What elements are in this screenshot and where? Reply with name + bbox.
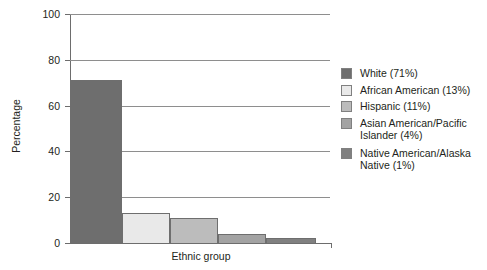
bar-native-american-alaska-native bbox=[266, 238, 316, 243]
plot-area bbox=[70, 14, 330, 243]
legend-item-native-american-alaska-native: Native American/Alaska Native (1%) bbox=[341, 147, 487, 172]
y-axis-title: Percentage bbox=[10, 71, 22, 181]
legend-swatch-icon-white bbox=[341, 68, 352, 79]
y-axis-label-60: 60 bbox=[20, 101, 60, 112]
legend-item-white: White (71%) bbox=[341, 67, 487, 80]
y-axis-label-100: 100 bbox=[20, 9, 60, 20]
legend-item-asian-american-pacific-islander: Asian American/Pacific Islander (4%) bbox=[341, 117, 487, 142]
legend: White (71%) African American (13%) Hispa… bbox=[341, 67, 487, 176]
bar-white bbox=[70, 80, 122, 243]
y-axis-label-40: 40 bbox=[20, 146, 60, 157]
y-axis-label-0: 0 bbox=[20, 238, 60, 249]
legend-swatch-icon-hispanic bbox=[341, 101, 352, 112]
y-axis-label-20: 20 bbox=[20, 192, 60, 203]
legend-label-asian-american-pacific-islander: Asian American/Pacific Islander (4%) bbox=[360, 117, 487, 142]
legend-swatch-icon-asian-american-pacific-islander bbox=[341, 118, 352, 129]
legend-label-hispanic: Hispanic (11%) bbox=[360, 100, 430, 113]
legend-label-african-american: African American (13%) bbox=[360, 84, 470, 97]
bar-series bbox=[70, 14, 330, 243]
bar-african-american bbox=[122, 213, 170, 243]
x-axis-end-tick bbox=[331, 243, 332, 248]
bar-chart: 100 80 60 40 20 0 Percentage Ethnic grou… bbox=[0, 0, 487, 270]
legend-item-african-american: African American (13%) bbox=[341, 84, 487, 97]
y-axis-label-80: 80 bbox=[20, 55, 60, 66]
legend-label-native-american-alaska-native: Native American/Alaska Native (1%) bbox=[360, 147, 487, 172]
legend-swatch-icon-native-american-alaska-native bbox=[341, 148, 352, 159]
legend-swatch-icon-african-american bbox=[341, 85, 352, 96]
legend-label-white: White (71%) bbox=[360, 67, 418, 80]
bar-hispanic bbox=[170, 218, 218, 243]
bar-asian-american-pacific-islander bbox=[218, 234, 266, 243]
x-axis-title: Ethnic group bbox=[70, 250, 332, 262]
legend-item-hispanic: Hispanic (11%) bbox=[341, 100, 487, 113]
x-axis-baseline bbox=[70, 243, 332, 244]
